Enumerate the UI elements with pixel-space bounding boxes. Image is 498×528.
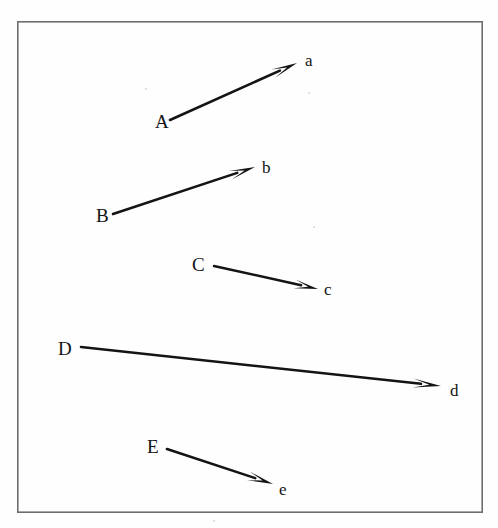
scan-speck (313, 226, 315, 228)
arrow-a-shaft (170, 71, 280, 120)
arrow-target-label-d: d (450, 382, 459, 399)
arrow-target-label-c: c (324, 281, 332, 298)
arrow-d-shaft (81, 347, 421, 384)
arrow-b (113, 167, 255, 214)
arrow-target-label-e: e (279, 481, 287, 498)
arrow-a-head-icon (271, 63, 297, 78)
arrow-target-label-b: b (262, 159, 271, 176)
scan-speck (308, 92, 310, 94)
arrow-b-shaft (113, 173, 237, 214)
arrow-source-label-a: A (155, 112, 169, 131)
arrow-e-shaft (167, 449, 255, 478)
figure-border (18, 22, 482, 512)
arrow-c-shaft (214, 266, 301, 285)
arrow-layer (81, 63, 441, 484)
figure-container: AaBbCcDdEe (0, 0, 498, 528)
arrow-d (81, 347, 441, 387)
arrow-source-label-c: C (192, 255, 205, 274)
arrow-source-label-e: E (147, 437, 159, 456)
arrow-a (170, 63, 297, 120)
arrow-diagram-canvas (0, 0, 498, 528)
scan-speck (213, 520, 215, 522)
arrow-e (167, 449, 273, 484)
scan-speck (145, 88, 147, 90)
arrow-source-label-b: B (96, 206, 109, 225)
arrow-c (214, 266, 318, 289)
arrow-target-label-a: a (305, 52, 313, 69)
arrow-source-label-d: D (58, 339, 72, 358)
